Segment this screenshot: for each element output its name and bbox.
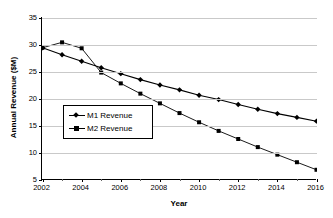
data-point-marker: [60, 40, 64, 44]
x-tick-minor: [258, 179, 259, 181]
data-point-marker: [236, 137, 240, 141]
data-point-marker: [138, 92, 142, 96]
x-tick-mark: [238, 179, 239, 182]
data-point-marker: [177, 87, 182, 92]
plot-area: [41, 17, 316, 180]
y-tick-mark: [39, 99, 42, 100]
data-point-marker: [236, 102, 241, 107]
x-tick-mark: [160, 179, 161, 182]
data-point-marker: [217, 129, 221, 133]
x-tick-minor: [180, 179, 181, 181]
y-tick-label: 25: [15, 68, 37, 76]
data-point-marker: [256, 145, 260, 149]
legend-marker-square-icon: [69, 124, 85, 133]
y-tick-label: 10: [15, 149, 37, 157]
gridline: [42, 99, 317, 100]
data-point-marker: [158, 101, 162, 105]
y-tick-mark: [39, 153, 42, 154]
data-point-marker: [80, 46, 84, 50]
data-point-marker: [178, 111, 182, 115]
x-tick-label: 2002: [27, 183, 57, 192]
y-tick-mark: [39, 126, 42, 127]
data-point-marker: [79, 59, 84, 64]
data-point-marker: [196, 93, 201, 98]
y-tick-mark: [39, 18, 42, 19]
data-point-marker: [294, 115, 299, 120]
data-point-marker: [314, 118, 317, 123]
x-tick-mark: [199, 179, 200, 182]
gridline: [42, 72, 317, 73]
x-tick-mark: [277, 179, 278, 182]
x-tick-minor: [101, 179, 102, 181]
legend-label-m1: M1 Revenue: [87, 111, 132, 120]
x-tick-label: 2016: [301, 183, 331, 192]
line-chart-figure: Annual Revenue ($M) Year M1 Revenue M2 R…: [0, 0, 333, 218]
data-point-marker: [315, 168, 318, 172]
y-tick-mark: [39, 72, 42, 73]
data-point-marker: [255, 107, 260, 112]
legend-label-m2: M2 Revenue: [87, 124, 132, 133]
x-tick-minor: [62, 179, 63, 181]
legend-marker-diamond-icon: [69, 111, 85, 120]
x-tick-minor: [219, 179, 220, 181]
gridline: [42, 18, 317, 19]
x-tick-label: 2006: [105, 183, 135, 192]
x-tick-label: 2012: [222, 183, 252, 192]
x-tick-label: 2014: [261, 183, 291, 192]
gridline: [42, 45, 317, 46]
x-tick-label: 2010: [183, 183, 213, 192]
gridline: [42, 153, 317, 154]
y-tick-label: 30: [15, 41, 37, 49]
x-tick-label: 2004: [66, 183, 96, 192]
x-tick-label: 2008: [144, 183, 174, 192]
x-tick-mark: [121, 179, 122, 182]
x-tick-minor: [297, 179, 298, 181]
x-tick-mark: [82, 179, 83, 182]
y-tick-label: 20: [15, 95, 37, 103]
y-tick-label: 35: [15, 14, 37, 22]
legend-item-m2: M2 Revenue: [66, 122, 150, 135]
data-point-marker: [157, 82, 162, 87]
data-point-marker: [295, 160, 299, 164]
data-point-marker: [42, 46, 45, 50]
chart-legend: M1 Revenue M2 Revenue: [63, 105, 153, 139]
x-tick-mark: [43, 179, 44, 182]
data-point-marker: [59, 52, 64, 57]
x-tick-mark: [317, 179, 318, 182]
data-point-marker: [138, 77, 143, 82]
y-tick-label: 15: [15, 122, 37, 130]
legend-item-m1: M1 Revenue: [66, 109, 150, 122]
data-point-marker: [275, 111, 280, 116]
data-point-marker: [119, 81, 123, 85]
data-point-marker: [197, 120, 201, 124]
x-axis-title: Year: [41, 199, 317, 208]
y-tick-mark: [39, 180, 42, 181]
y-tick-mark: [39, 45, 42, 46]
x-tick-minor: [140, 179, 141, 181]
